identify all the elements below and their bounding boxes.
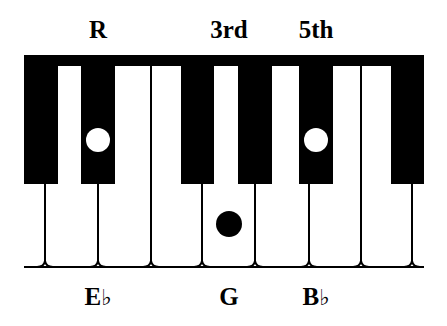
label-root: R bbox=[89, 17, 107, 42]
note-letter: B bbox=[302, 283, 319, 310]
chord-tone-marker-icon bbox=[216, 211, 242, 237]
flat-sign: ♭ bbox=[319, 285, 329, 310]
black-key bbox=[391, 55, 424, 184]
black-key bbox=[24, 55, 58, 184]
label-third: 3rd bbox=[210, 17, 248, 42]
chord-tone-marker-icon bbox=[86, 128, 110, 152]
note-letter: G bbox=[219, 283, 238, 310]
flat-sign: ♭ bbox=[101, 285, 111, 310]
black-key bbox=[181, 55, 214, 184]
piano-keyboard bbox=[0, 0, 447, 326]
black-key bbox=[81, 55, 115, 184]
chord-tone-marker-icon bbox=[304, 128, 328, 152]
note-label-eb: E♭ bbox=[84, 284, 111, 309]
black-key bbox=[238, 55, 272, 184]
note-label-bb: B♭ bbox=[302, 284, 329, 309]
note-label-g: G bbox=[219, 284, 238, 309]
note-letter: E bbox=[84, 283, 101, 310]
label-fifth: 5th bbox=[299, 17, 334, 42]
black-key bbox=[299, 55, 333, 184]
